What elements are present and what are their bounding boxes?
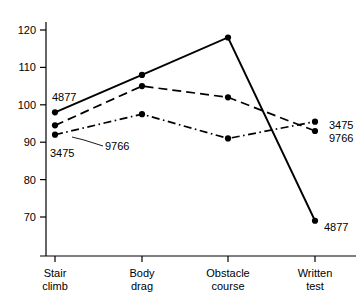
annotation-3475-right: 3475 [329, 119, 353, 131]
annotation-4877-right: 4877 [324, 221, 348, 233]
x-label-body-drag-line1: Body [129, 267, 155, 279]
series-3475 [52, 111, 318, 142]
data-point-3475-3 [312, 119, 318, 125]
series-line-9766 [55, 86, 315, 131]
data-point-4877-2 [225, 34, 231, 40]
x-label-obstacle-course-line2: course [211, 280, 244, 292]
y-tick-label-110: 110 [18, 61, 36, 73]
data-point-4877-1 [139, 72, 145, 78]
data-point-3475-0 [52, 132, 58, 138]
series-layer [52, 34, 318, 223]
data-point-9766-2 [225, 94, 231, 100]
chart-canvas: 120 110 100 90 80 70 Stair climb Body dr… [0, 0, 362, 304]
x-label-body-drag-line2: drag [131, 280, 153, 292]
y-tick-label-70: 70 [24, 211, 36, 223]
axes-group [40, 22, 356, 256]
y-tick-label-100: 100 [18, 99, 36, 111]
leader-line-9766 [72, 137, 103, 146]
annotation-4877-left: 4877 [52, 91, 76, 103]
x-label-written-test-line2: test [306, 280, 324, 292]
line-chart: 120 110 100 90 80 70 Stair climb Body dr… [0, 0, 362, 304]
series-line-3475 [55, 114, 315, 138]
annotation-3475-left: 3475 [50, 147, 74, 159]
x-label-stair-climb-line1: Stair [44, 267, 67, 279]
x-label-obstacle-course-line1: Obstacle [206, 267, 249, 279]
x-label-written-test-line1: Written [298, 267, 333, 279]
annotations-group: 4877 9766 3475 3475 9766 4877 [50, 91, 353, 233]
series-4877 [52, 34, 318, 223]
data-point-9766-0 [52, 122, 58, 128]
data-point-4877-3 [312, 218, 318, 224]
x-label-stair-climb-line2: climb [42, 280, 68, 292]
data-point-9766-3 [312, 128, 318, 134]
annotation-9766-right: 9766 [329, 132, 353, 144]
data-point-3475-2 [225, 135, 231, 141]
annotation-9766-left: 9766 [105, 140, 129, 152]
data-point-3475-1 [139, 111, 145, 117]
x-axis-ticks: Stair climb Body drag Obstacle course Wr… [42, 256, 332, 292]
y-axis-ticks: 120 110 100 90 80 70 [18, 24, 46, 223]
data-point-9766-1 [139, 83, 145, 89]
y-tick-label-80: 80 [24, 174, 36, 186]
y-tick-label-120: 120 [18, 24, 36, 36]
y-tick-label-90: 90 [24, 136, 36, 148]
data-point-4877-0 [52, 109, 58, 115]
